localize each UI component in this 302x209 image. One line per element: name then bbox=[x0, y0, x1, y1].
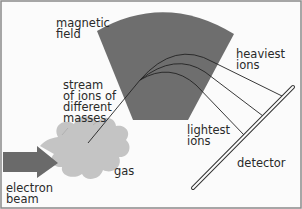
label-heaviest-ions: heaviest ions bbox=[236, 49, 285, 71]
label-magnetic-field: magnetic field bbox=[56, 18, 110, 40]
label-ion-stream: stream of ions of different masses bbox=[63, 80, 116, 124]
label-electron-beam: electron beam bbox=[6, 183, 53, 205]
label-gas: gas bbox=[114, 166, 134, 177]
label-detector: detector bbox=[237, 158, 286, 169]
mass-spectrometer-diagram: magnetic field heaviest ions stream of i… bbox=[0, 0, 302, 209]
diagram-graphics bbox=[0, 0, 302, 209]
label-lightest-ions: lightest ions bbox=[187, 125, 230, 147]
